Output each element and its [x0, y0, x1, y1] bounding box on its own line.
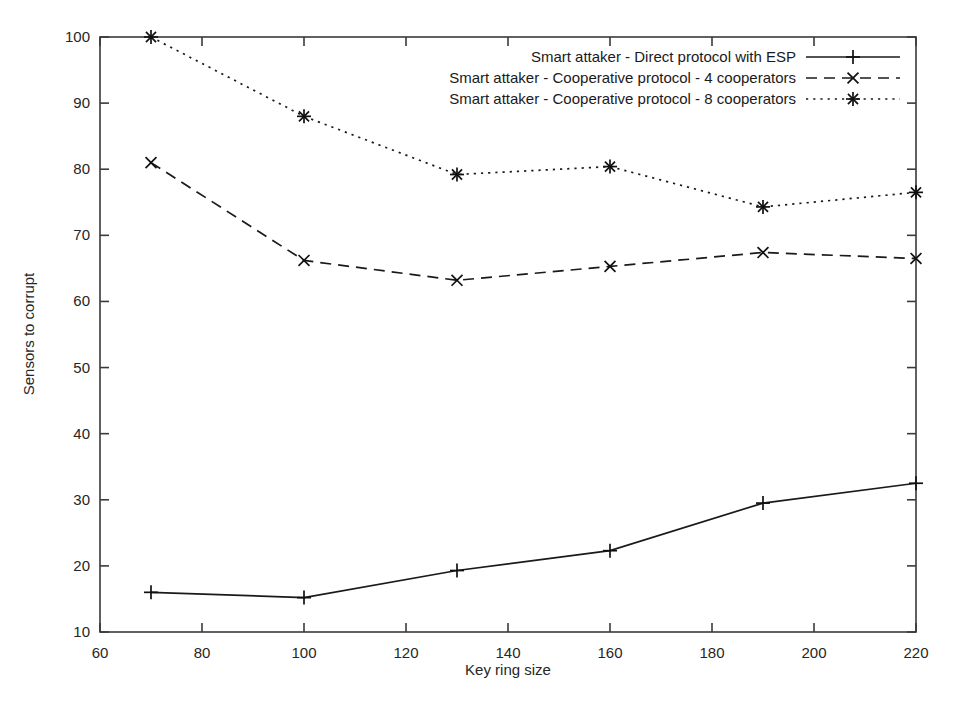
legend-label: Smart attaker - Cooperative protocol - 8… — [449, 90, 796, 107]
legend-label: Smart attaker - Direct protocol with ESP — [531, 48, 796, 65]
x-tick-label: 140 — [495, 644, 520, 661]
data-point-marker-star — [909, 185, 923, 199]
y-tick-label: 90 — [73, 94, 90, 111]
x-tick-label: 220 — [903, 644, 928, 661]
x-tick-label: 80 — [194, 644, 211, 661]
y-tick-label: 30 — [73, 491, 90, 508]
x-tick-label: 160 — [597, 644, 622, 661]
y-tick-label: 20 — [73, 557, 90, 574]
y-tick-label: 40 — [73, 425, 90, 442]
chart-container: 6080100120140160180200220 10203040506070… — [0, 0, 953, 705]
data-point-marker-star — [297, 109, 311, 123]
y-tick-label: 80 — [73, 160, 90, 177]
legend-label: Smart attaker - Cooperative protocol - 4… — [449, 69, 796, 86]
y-axis-title: Sensors to corrupt — [20, 272, 37, 395]
data-point-marker-star — [756, 200, 770, 214]
x-tick-label: 60 — [92, 644, 109, 661]
y-tick-label: 50 — [73, 359, 90, 376]
line-chart: 6080100120140160180200220 10203040506070… — [0, 0, 953, 705]
data-point-marker-star — [450, 168, 464, 182]
x-tick-label: 180 — [699, 644, 724, 661]
x-axis-title: Key ring size — [465, 661, 551, 678]
y-tick-label: 100 — [65, 28, 90, 45]
data-point-marker-star — [846, 92, 860, 106]
data-point-marker-star — [603, 160, 617, 174]
data-point-marker-star — [144, 30, 158, 44]
x-tick-label: 200 — [801, 644, 826, 661]
x-tick-label: 120 — [393, 644, 418, 661]
y-tick-label: 70 — [73, 226, 90, 243]
x-tick-label: 100 — [291, 644, 316, 661]
y-tick-label: 60 — [73, 292, 90, 309]
y-tick-label: 10 — [73, 623, 90, 640]
